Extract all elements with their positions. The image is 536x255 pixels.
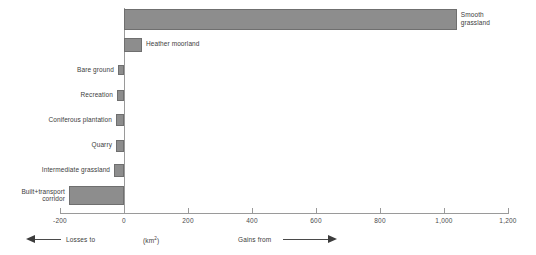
bar-label: Heather moorland [146, 40, 200, 48]
x-tick-mark [380, 208, 381, 214]
bar-label: Coniferous plantation [48, 116, 112, 124]
x-tick-label: 200 [182, 217, 193, 224]
bar-label: Bare ground [77, 66, 114, 74]
x-tick-label: 1,200 [499, 217, 516, 224]
plot-area: -20002004006008001,0001,200 Smooth grass… [0, 0, 536, 255]
losses-to-label: Losses to [66, 236, 95, 243]
x-tick-mark [188, 208, 189, 214]
x-tick-label: 800 [374, 217, 385, 224]
units-close: ) [157, 237, 159, 244]
x-tick-mark [124, 208, 125, 214]
bar [118, 65, 124, 75]
bar-label: Recreation [81, 91, 113, 99]
bar [124, 9, 457, 30]
bar-label: Quarry [92, 141, 112, 149]
x-tick-mark [316, 208, 317, 214]
x-tick-label: 600 [310, 217, 321, 224]
x-tick-label: 0 [122, 217, 126, 224]
x-tick-mark [444, 208, 445, 214]
x-tick-mark [252, 208, 253, 214]
bar [69, 186, 124, 205]
land-cover-change-chart: -20002004006008001,0001,200 Smooth grass… [0, 0, 536, 255]
gains-arrow-line [283, 239, 329, 240]
x-tick-label: -200 [53, 217, 67, 224]
losses-arrow-line [35, 239, 61, 240]
bar [116, 114, 124, 126]
bar [116, 140, 124, 152]
x-tick-label: 1,000 [435, 217, 452, 224]
bar [117, 90, 124, 101]
x-tick-label: 400 [246, 217, 257, 224]
x-tick-mark [508, 208, 509, 214]
bar [114, 164, 124, 177]
x-axis-units-label: (km2) [143, 236, 159, 244]
gains-arrow-head-icon [328, 235, 337, 243]
losses-arrow-head-icon [26, 235, 35, 243]
bar [124, 38, 142, 52]
units-open: (km [143, 237, 154, 244]
gains-from-label: Gains from [238, 236, 271, 243]
bar-label: Built+transport corridor [21, 188, 65, 203]
bar-label: Smooth grassland [461, 11, 490, 26]
x-axis-line [60, 213, 508, 214]
x-tick-mark [60, 208, 61, 214]
bar-label: Intermediate grassland [42, 166, 110, 174]
